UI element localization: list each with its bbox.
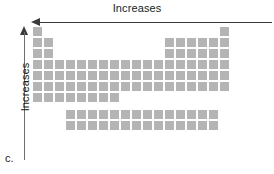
element-cell [66, 71, 75, 80]
element-cell [132, 121, 141, 130]
element-cell [165, 49, 174, 58]
element-cell [176, 38, 185, 47]
element-cell [198, 60, 207, 69]
element-cell [187, 82, 196, 91]
element-cell [121, 71, 130, 80]
element-cell [66, 93, 75, 102]
element-cell [176, 71, 185, 80]
element-cell [44, 93, 53, 102]
element-cell [187, 49, 196, 58]
element-cell [99, 82, 108, 91]
element-cell [209, 60, 218, 69]
vertical-axis: Increases [20, 26, 30, 160]
element-cell [77, 93, 86, 102]
element-cell [154, 121, 163, 130]
element-cell [110, 93, 119, 102]
element-cell [132, 110, 141, 119]
element-cell [143, 82, 152, 91]
element-cell [198, 82, 207, 91]
element-cell [55, 82, 64, 91]
element-cell [165, 71, 174, 80]
element-cell [88, 93, 97, 102]
element-cell [132, 71, 141, 80]
element-cell [165, 82, 174, 91]
element-cell [55, 93, 64, 102]
element-cell [66, 110, 75, 119]
element-cell [165, 60, 174, 69]
element-cell [99, 121, 108, 130]
element-cell [176, 110, 185, 119]
element-cell [187, 110, 196, 119]
element-cell [44, 38, 53, 47]
element-cell [209, 121, 218, 130]
element-cell [154, 60, 163, 69]
element-cell [99, 93, 108, 102]
element-cell [77, 82, 86, 91]
element-cell [220, 82, 229, 91]
element-cell [66, 60, 75, 69]
element-cell [88, 60, 97, 69]
element-cell [143, 60, 152, 69]
element-cell [143, 121, 152, 130]
element-cell [33, 27, 42, 36]
element-cell [187, 71, 196, 80]
element-cell [44, 49, 53, 58]
panel-label: c. [5, 152, 14, 164]
element-cell [55, 60, 64, 69]
element-cell [198, 71, 207, 80]
element-cell [88, 121, 97, 130]
element-cell [165, 38, 174, 47]
element-cell [154, 71, 163, 80]
element-cell [187, 121, 196, 130]
element-cell [110, 60, 119, 69]
element-cell [143, 71, 152, 80]
element-cell [198, 49, 207, 58]
element-cell [176, 82, 185, 91]
element-cell [88, 110, 97, 119]
element-cell [220, 38, 229, 47]
periodic-trend-diagram: Increases Increases c. [0, 0, 274, 174]
element-cell [99, 60, 108, 69]
element-cell [187, 60, 196, 69]
horizontal-axis-label: Increases [0, 2, 274, 14]
element-cell [209, 82, 218, 91]
element-cell [99, 110, 108, 119]
element-cell [88, 71, 97, 80]
element-cell [33, 71, 42, 80]
element-cell [66, 121, 75, 130]
element-cell [55, 71, 64, 80]
element-cell [209, 38, 218, 47]
element-cell [198, 121, 207, 130]
element-cell [77, 121, 86, 130]
element-cell [88, 82, 97, 91]
element-cell [176, 121, 185, 130]
element-cell [132, 60, 141, 69]
periodic-table-grid [33, 27, 274, 167]
horizontal-axis-line [37, 22, 272, 23]
element-cell [187, 38, 196, 47]
element-cell [33, 82, 42, 91]
element-cell [110, 71, 119, 80]
element-cell [165, 110, 174, 119]
element-cell [220, 49, 229, 58]
element-cell [99, 71, 108, 80]
element-cell [33, 60, 42, 69]
element-cell [77, 110, 86, 119]
element-cell [33, 93, 42, 102]
element-cell [220, 71, 229, 80]
element-cell [33, 38, 42, 47]
element-cell [209, 110, 218, 119]
element-cell [110, 121, 119, 130]
element-cell [176, 49, 185, 58]
element-cell [220, 27, 229, 36]
element-cell [220, 60, 229, 69]
element-cell [77, 60, 86, 69]
element-cell [198, 38, 207, 47]
element-cell [121, 110, 130, 119]
element-cell [110, 82, 119, 91]
element-cell [44, 71, 53, 80]
element-cell [110, 110, 119, 119]
element-cell [132, 82, 141, 91]
element-cell [33, 49, 42, 58]
element-cell [154, 110, 163, 119]
